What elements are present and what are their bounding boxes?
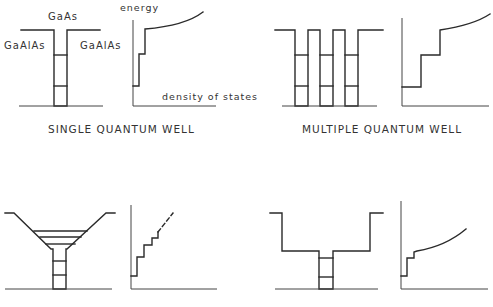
axis-label-energy: energy	[120, 2, 159, 13]
multiple-dos-plot	[402, 14, 490, 106]
label-gaas: GaAs	[48, 11, 78, 22]
graded-dos-plot	[131, 205, 217, 289]
caption-multiple: MULTIPLE QUANTUM WELL	[302, 123, 462, 135]
multiple-well-potential	[275, 30, 383, 106]
label-gaalas-left: GaAlAs	[4, 40, 46, 51]
separate-confinement-dos-plot	[401, 201, 488, 289]
caption-single: SINGLE QUANTUM WELL	[48, 123, 195, 135]
axis-label-dos: density of states	[162, 91, 258, 102]
separate-confinement-potential	[270, 213, 383, 289]
quantum-well-diagram: GaAs GaAlAs GaAlAs energy density of sta…	[0, 0, 493, 307]
graded-well-potential	[5, 213, 115, 289]
label-gaalas-right: GaAlAs	[80, 40, 122, 51]
